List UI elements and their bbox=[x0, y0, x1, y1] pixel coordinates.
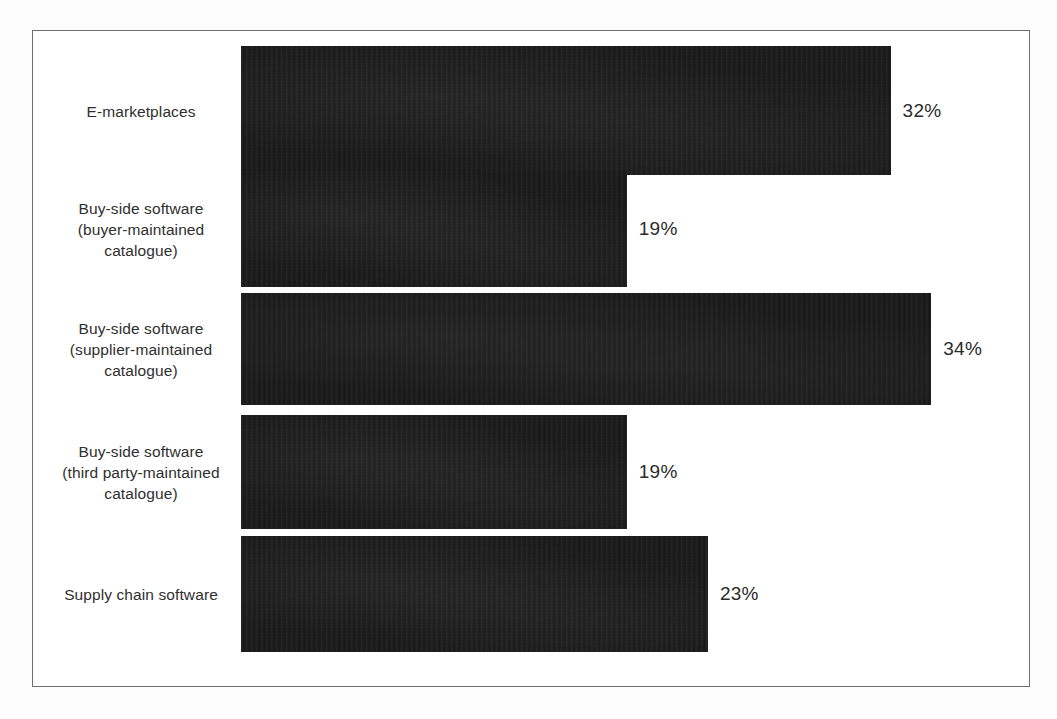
chart-page: E-marketplaces32%Buy-side software(buyer… bbox=[0, 0, 1057, 719]
bar-row: Buy-side software(supplier-maintainedcat… bbox=[33, 293, 1029, 405]
category-label-supply-chain-software: Supply chain software bbox=[43, 584, 239, 605]
value-label-buy-side-supplier-maintained: 34% bbox=[943, 338, 982, 360]
category-label-line: catalogue) bbox=[43, 240, 239, 261]
category-label-buy-side-supplier-maintained: Buy-side software(supplier-maintainedcat… bbox=[43, 318, 239, 381]
category-label-line: (third party-maintained bbox=[43, 462, 239, 483]
category-label-line: catalogue) bbox=[43, 360, 239, 381]
category-label-line: Buy-side software bbox=[43, 441, 239, 462]
category-label-line: E-marketplaces bbox=[43, 100, 239, 121]
bar-row: Supply chain software23% bbox=[33, 536, 1029, 652]
category-label-buy-side-buyer-maintained: Buy-side software(buyer-maintainedcatalo… bbox=[43, 198, 239, 261]
category-label-line: (buyer-maintained bbox=[43, 219, 239, 240]
bar-buy-side-third-party-maintained bbox=[241, 415, 627, 529]
bar-buy-side-buyer-maintained bbox=[241, 171, 627, 287]
plot-area: E-marketplaces32%Buy-side software(buyer… bbox=[33, 31, 1029, 686]
value-label-supply-chain-software: 23% bbox=[720, 583, 759, 605]
bar-e-marketplaces bbox=[241, 46, 891, 175]
value-label-buy-side-buyer-maintained: 19% bbox=[639, 218, 678, 240]
bar-row: Buy-side software(third party-maintained… bbox=[33, 415, 1029, 529]
bar-row: E-marketplaces32% bbox=[33, 46, 1029, 175]
category-label-line: Supply chain software bbox=[43, 584, 239, 605]
bar-buy-side-supplier-maintained bbox=[241, 293, 931, 405]
category-label-buy-side-third-party-maintained: Buy-side software(third party-maintained… bbox=[43, 441, 239, 504]
category-label-e-marketplaces: E-marketplaces bbox=[43, 100, 239, 121]
category-label-line: catalogue) bbox=[43, 483, 239, 504]
bar-supply-chain-software bbox=[241, 536, 708, 652]
value-label-buy-side-third-party-maintained: 19% bbox=[639, 461, 678, 483]
category-label-line: Buy-side software bbox=[43, 318, 239, 339]
chart-frame: E-marketplaces32%Buy-side software(buyer… bbox=[32, 30, 1030, 687]
bar-row: Buy-side software(buyer-maintainedcatalo… bbox=[33, 171, 1029, 287]
category-label-line: Buy-side software bbox=[43, 198, 239, 219]
value-label-e-marketplaces: 32% bbox=[903, 100, 942, 122]
category-label-line: (supplier-maintained bbox=[43, 339, 239, 360]
